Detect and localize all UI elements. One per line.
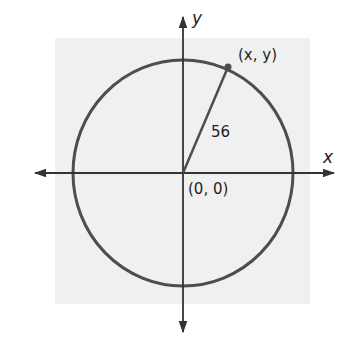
point-label: (x, y) <box>238 46 277 64</box>
y-axis-label: y <box>191 8 203 28</box>
point-on-circle <box>225 64 232 71</box>
x-axis-label: x <box>322 147 334 167</box>
origin-label: (0, 0) <box>188 180 228 198</box>
circle-diagram: y x (x, y) 56 (0, 0) <box>0 0 351 353</box>
radius-label: 56 <box>211 123 230 141</box>
